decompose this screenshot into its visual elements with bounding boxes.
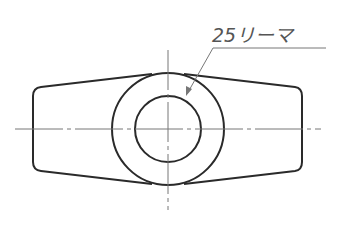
part-drawing — [0, 0, 346, 246]
hole-annotation: 25リーマ — [212, 20, 293, 47]
technical-drawing: 25リーマ — [0, 0, 346, 246]
leader-line — [187, 48, 326, 94]
